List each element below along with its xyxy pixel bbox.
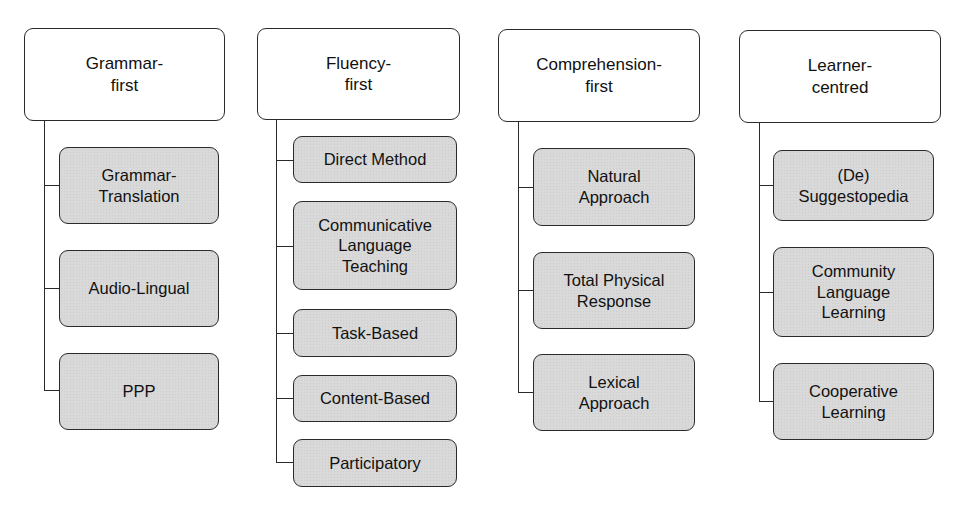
method-box-cooperative-learning: Cooperative Learning [773, 363, 934, 440]
method-label: Participatory [329, 453, 421, 474]
method-label: Community Language Learning [812, 261, 895, 323]
method-label: Cooperative Learning [809, 381, 898, 422]
category-header-comprehension-first: Comprehension- first [498, 29, 700, 122]
category-header-label: Comprehension- first [536, 54, 662, 97]
method-box-lexical-approach: Lexical Approach [533, 354, 695, 431]
category-header-label: Learner- centred [808, 55, 872, 98]
tree-connector-branch [518, 290, 533, 291]
category-header-label: Fluency- first [326, 53, 391, 96]
method-label: Communicative Language Teaching [318, 215, 432, 277]
tree-connector-branch [518, 392, 533, 393]
method-label: Audio-Lingual [89, 278, 190, 299]
method-box-grammar-translation: Grammar- Translation [59, 147, 219, 224]
method-label: Task-Based [332, 323, 418, 344]
tree-connector-branch [44, 390, 59, 391]
method-label: Direct Method [324, 149, 427, 170]
method-label: Content-Based [320, 388, 430, 409]
category-header-grammar-first: Grammar- first [24, 28, 225, 121]
method-label: PPP [122, 381, 155, 402]
category-header-fluency-first: Fluency- first [257, 28, 460, 120]
category-header-learner-centred: Learner- centred [739, 30, 941, 123]
method-box-communicative-language-teaching: Communicative Language Teaching [293, 201, 457, 290]
method-label: Lexical Approach [579, 372, 650, 413]
method-label: (De) Suggestopedia [798, 165, 908, 206]
method-box-direct-method: Direct Method [293, 136, 457, 183]
tree-connector-vertical [518, 122, 519, 393]
category-header-label: Grammar- first [86, 53, 163, 96]
tree-connector-branch [276, 462, 293, 463]
tree-connector-branch [759, 401, 773, 402]
tree-connector-branch [759, 292, 773, 293]
method-box-natural-approach: Natural Approach [533, 148, 695, 226]
tree-connector-branch [44, 288, 59, 289]
tree-connector-branch [759, 185, 773, 186]
method-box-community-language-learning: Community Language Learning [773, 247, 934, 337]
tree-connector-branch [276, 333, 293, 334]
method-box-participatory: Participatory [293, 439, 457, 487]
tree-connector-branch [276, 398, 293, 399]
tree-connector-branch [44, 185, 59, 186]
method-box-total-physical-response: Total Physical Response [533, 252, 695, 329]
tree-connector-branch [276, 160, 293, 161]
method-box-suggestopedia: (De) Suggestopedia [773, 150, 934, 221]
method-label: Total Physical Response [564, 270, 665, 311]
method-box-audio-lingual: Audio-Lingual [59, 250, 219, 327]
method-label: Grammar- Translation [98, 165, 179, 206]
tree-connector-vertical [276, 120, 277, 463]
method-box-ppp: PPP [59, 353, 219, 430]
method-label: Natural Approach [579, 166, 650, 207]
method-box-content-based: Content-Based [293, 375, 457, 422]
tree-connector-branch [518, 187, 533, 188]
tree-connector-branch [276, 246, 293, 247]
tree-connector-vertical [44, 121, 45, 391]
method-box-task-based: Task-Based [293, 309, 457, 357]
tree-connector-vertical [759, 123, 760, 402]
